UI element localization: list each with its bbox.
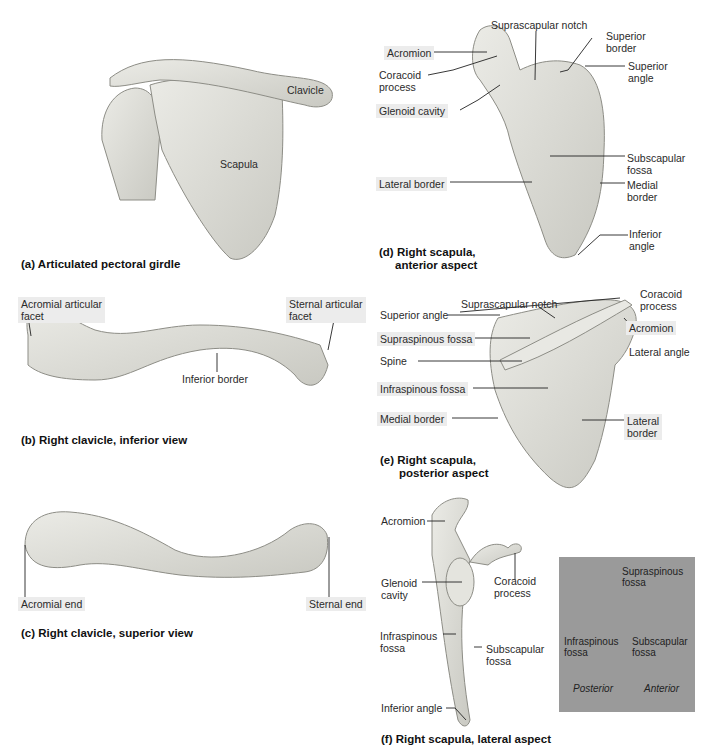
label-b-sternal-articular-facet: Sternal articularfacet xyxy=(286,297,366,323)
scapula-posterior-illustration xyxy=(490,300,636,488)
label-e-infraspinous-fossa: Infraspinous fossa xyxy=(377,382,468,396)
label-f-glenoid-cavity: Glenoidcavity xyxy=(381,577,417,601)
label-f-subscapular-fossa: Subscapularfossa xyxy=(486,643,544,667)
label-d-suprascapular-notch: Suprascapular notch xyxy=(491,19,587,31)
caption-b: (b) Right clavicle, inferior view xyxy=(21,434,187,447)
label-f-coracoid-process: Coracoidprocess xyxy=(494,575,536,599)
label-e-suprascapular-notch: Suprascapular notch xyxy=(461,298,557,310)
label-scapula: Scapula xyxy=(220,158,258,170)
caption-f: (f) Right scapula, lateral aspect xyxy=(381,733,551,746)
label-e-medial-border: Medial border xyxy=(377,412,447,426)
label-f-acromion: Acromion xyxy=(381,515,425,527)
inset-subscapular-fossa: Subscapularfossa xyxy=(632,636,688,658)
label-clavicle: Clavicle xyxy=(287,84,324,96)
inset-fossa-schematic: Supraspinousfossa Infraspinousfossa Subs… xyxy=(559,557,695,712)
label-e-acromion: Acromion xyxy=(626,321,676,335)
label-e-superior-angle: Superior angle xyxy=(380,309,448,321)
label-c-sternal-end: Sternal end xyxy=(306,597,366,611)
label-b-acromial-articular-facet: Acromial articularfacet xyxy=(18,297,105,323)
inset-supraspinous-fossa: Supraspinousfossa xyxy=(622,566,683,588)
label-c-acromial-end: Acromial end xyxy=(18,597,85,611)
caption-e: (e) Right scapula,posterior aspect xyxy=(380,454,488,480)
label-d-lateral-border: Lateral border xyxy=(376,177,447,191)
clavicle-superior-illustration xyxy=(25,512,328,578)
label-d-acromion: Acromion xyxy=(384,46,434,60)
label-d-superior-border: Superiorborder xyxy=(606,30,646,54)
label-f-infraspinous-fossa: Infraspinousfossa xyxy=(380,630,437,654)
label-d-coracoid-process: Coracoidprocess xyxy=(379,69,421,93)
label-d-medial-border: Medialborder xyxy=(627,179,658,203)
label-d-glenoid-cavity: Glenoid cavity xyxy=(376,104,448,118)
label-d-subscapular-fossa: Subscapularfossa xyxy=(627,152,685,176)
label-e-spine: Spine xyxy=(380,355,407,367)
scapula-anterior-illustration xyxy=(473,26,605,258)
caption-c: (c) Right clavicle, superior view xyxy=(21,627,193,640)
caption-a: (a) Articulated pectoral girdle xyxy=(21,258,180,271)
inset-anterior-label: Anterior xyxy=(644,683,679,694)
label-d-superior-angle: Superiorangle xyxy=(628,60,668,84)
scapula-lateral-illustration xyxy=(432,498,521,726)
inset-posterior-label: Posterior xyxy=(573,683,613,694)
label-e-lateral-angle: Lateral angle xyxy=(629,346,690,358)
label-f-inferior-angle: Inferior angle xyxy=(381,702,442,714)
label-b-inferior-border: Inferior border xyxy=(182,373,248,385)
caption-d: (d) Right scapula,anterior aspect xyxy=(379,246,477,272)
label-e-lateral-border: Lateralborder xyxy=(624,414,662,440)
label-d-inferior-angle: Inferiorangle xyxy=(629,228,662,252)
label-e-supraspinous-fossa: Supraspinous fossa xyxy=(377,332,475,346)
label-e-coracoid-process: Coracoidprocess xyxy=(640,288,682,312)
inset-infraspinous-fossa: Infraspinousfossa xyxy=(564,636,618,658)
